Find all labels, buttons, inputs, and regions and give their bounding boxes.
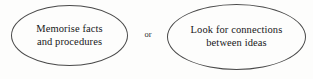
ellipse-node-connections[interactable]: Look for connections between ideas (167, 4, 306, 70)
ellipse-node-memorise-line-2: and procedures (37, 36, 102, 49)
connector-or-label: or (128, 29, 168, 40)
ellipse-node-memorise[interactable]: Memorise facts and procedures (11, 5, 128, 66)
ellipse-node-memorise-line-1: Memorise facts (36, 23, 102, 36)
ellipse-node-connections-line-2: between ideas (206, 37, 266, 50)
ellipse-node-connections-line-1: Look for connections (191, 24, 283, 37)
diagram-canvas: Memorise facts and procedures or Look fo… (0, 0, 313, 79)
